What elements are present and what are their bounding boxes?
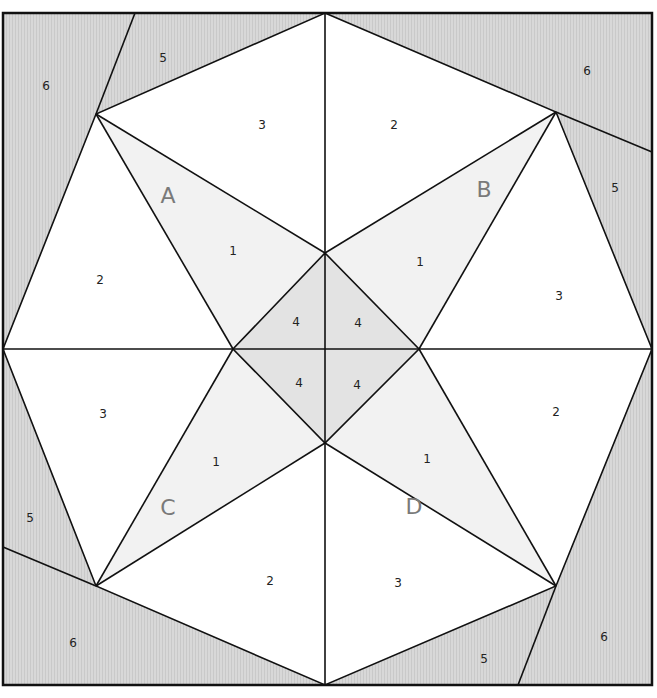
piece-d4: 4 bbox=[353, 378, 361, 392]
piece-d3: 3 bbox=[394, 576, 402, 590]
piece-a3: 3 bbox=[258, 118, 266, 132]
piece-c3: 3 bbox=[99, 407, 107, 421]
piece-d1: 1 bbox=[423, 452, 431, 466]
piece-a4: 4 bbox=[292, 315, 300, 329]
piece-b6: 6 bbox=[583, 64, 591, 78]
piece-d2: 2 bbox=[552, 405, 560, 419]
section-letter-b: B bbox=[476, 177, 491, 202]
piece-b4: 4 bbox=[354, 316, 362, 330]
piece-c4: 4 bbox=[295, 376, 303, 390]
piece-c5: 5 bbox=[26, 511, 34, 525]
quilt-block-diagram: A 1 2 3 4 5 6 B 1 2 3 4 5 6 C 1 2 3 4 5 … bbox=[0, 0, 657, 698]
piece-a5: 5 bbox=[159, 51, 167, 65]
piece-b3: 3 bbox=[555, 289, 563, 303]
piece-c2: 2 bbox=[266, 574, 274, 588]
piece-b2: 2 bbox=[390, 118, 398, 132]
piece-d6: 6 bbox=[600, 630, 608, 644]
piece-c6: 6 bbox=[69, 636, 77, 650]
piece-d5: 5 bbox=[480, 652, 488, 666]
piece-c1: 1 bbox=[212, 455, 220, 469]
piece-b5: 5 bbox=[611, 181, 619, 195]
piece-b1: 1 bbox=[416, 255, 424, 269]
section-letter-a: A bbox=[160, 183, 175, 208]
piece-a2: 2 bbox=[96, 273, 104, 287]
piece-a6: 6 bbox=[42, 79, 50, 93]
section-letter-d: D bbox=[406, 494, 423, 519]
piece-a1: 1 bbox=[229, 244, 237, 258]
section-letter-c: C bbox=[160, 495, 175, 520]
